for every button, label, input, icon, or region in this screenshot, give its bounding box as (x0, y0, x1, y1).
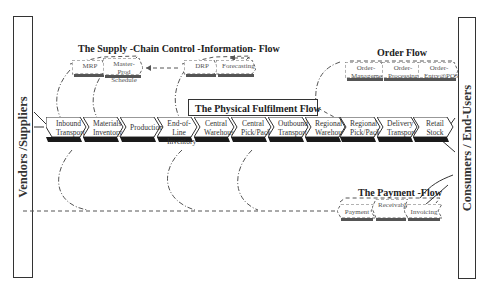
payment-flow-title: The Payment -Flow (358, 187, 442, 198)
physical-step-label: Production (130, 123, 154, 132)
order-step-label: Order- Entry@POS (424, 64, 454, 80)
payment-step-payment: Payment (337, 204, 375, 224)
info-step-master-prod-schedule: Master-Prod Schedule (103, 58, 143, 80)
physical-step-end-of-line-inventory: End-of-Line Inventory (157, 117, 197, 143)
physical-step-label: Central Warehouse (204, 119, 228, 137)
order-step-management: Order- Management (345, 62, 385, 84)
order-step-label: Order- Processing (388, 64, 418, 80)
chevron-shape (120, 117, 162, 147)
payment-step-receivables: Receivables (372, 199, 408, 224)
physical-step-label: Retail Stock (423, 119, 447, 137)
info-step-drp: DRP (184, 60, 218, 78)
physical-step-outbound-transport: Outbound Transport (268, 117, 308, 143)
info-step-label: Forecasting (222, 62, 252, 70)
order-flow-title: Order Flow (377, 47, 427, 58)
physical-step-inbound-transport: Inbound Transport (46, 117, 86, 143)
order-step-label: Order- Management (351, 64, 381, 80)
payment-step-invoicing: Invoicing (404, 204, 442, 224)
physical-step-retail-stock: Retail Stock (413, 117, 453, 143)
order-step-entry-pos: Order- Entry@POS (418, 62, 458, 84)
info-step-forecasting: Forecasting (216, 60, 256, 78)
physical-step-central-warehouse: Central Warehouse (194, 117, 234, 143)
physical-step-label: Inbound Transport (56, 119, 80, 137)
physical-step-materials-inventory: Materials Inventory (83, 117, 123, 143)
physical-step-label: Central Pick/Pack (241, 119, 265, 137)
info-step-label: Master-Prod Schedule (109, 60, 139, 84)
physical-step-label: Materials Inventory (93, 119, 117, 137)
physical-step-label: Delivery Transport (387, 119, 411, 137)
info-step-mrp: MRP (72, 60, 106, 78)
physical-step-label: Outbound Transport (278, 119, 302, 137)
payment-step-label: Payment (343, 208, 371, 216)
order-step-processing: Order- Processing (382, 62, 422, 84)
information-flow-title: The Supply -Chain Control -Information- … (78, 43, 280, 54)
info-step-label: DRP (190, 62, 214, 70)
physical-step-label: Regional Warehouse (315, 119, 339, 137)
physical-step-delivery-transport: Delivery Transport (377, 117, 417, 143)
payment-step-label: Receivables (378, 201, 404, 209)
physical-step-central-pick-pack: Central Pick/Pack (231, 117, 271, 143)
physical-step-label: End-of-Line Inventory (167, 119, 191, 146)
payment-step-label: Invoicing (410, 208, 438, 216)
physical-step-regional-pick-pack: Regional Pick/Pack (340, 117, 380, 143)
info-step-label: MRP (78, 62, 102, 70)
physical-flow-title: The Physical Fulfilment Flow (188, 99, 318, 116)
physical-step-label: Regional Pick/Pack (350, 119, 374, 137)
physical-step-regional-warehouse: Regional Warehouse (305, 117, 345, 143)
physical-step-production: Production (120, 117, 160, 143)
